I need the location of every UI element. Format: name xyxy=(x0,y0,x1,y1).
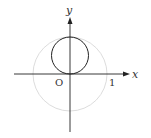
x-axis-arrow-icon xyxy=(123,72,130,77)
x-axis-label: x xyxy=(132,68,139,81)
diagram: x y O 1 xyxy=(0,0,151,138)
y-axis-label: y xyxy=(65,4,73,17)
one-label: 1 xyxy=(109,77,115,88)
origin-label: O xyxy=(55,77,63,88)
y-axis-arrow-icon xyxy=(68,17,73,24)
